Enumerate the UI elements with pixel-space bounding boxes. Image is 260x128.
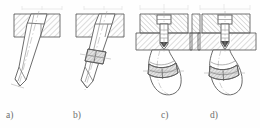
panel-d-label: d) <box>210 110 218 121</box>
panel-a-label: a) <box>6 110 13 121</box>
panel-b-label: b) <box>73 110 81 121</box>
drawing-canvas: a) b) <box>0 0 260 128</box>
technical-drawing-figure: a) b) <box>0 0 260 128</box>
panel-c-label: c) <box>161 110 168 121</box>
